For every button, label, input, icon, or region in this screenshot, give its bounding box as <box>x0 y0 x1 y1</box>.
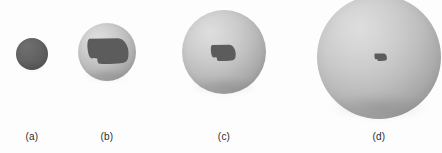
panel-a-caption: (a) <box>0 131 72 142</box>
panel-b-caption: (b) <box>67 131 147 142</box>
panel-c-caption: (c) <box>184 131 264 142</box>
sphere-b <box>78 23 136 81</box>
figure-canvas: (a) (b) (c) <box>0 0 442 153</box>
sphere-d-contact-shadow <box>327 94 431 121</box>
sphere-c-contact-shadow <box>189 77 260 95</box>
sphere-c <box>182 10 266 94</box>
sphere-a-contact-shadow <box>19 64 46 71</box>
sphere-d <box>317 0 441 119</box>
sphere-a <box>16 38 48 70</box>
panel-d-caption: (d) <box>339 131 419 142</box>
sphere-b-contact-shadow <box>83 69 132 82</box>
